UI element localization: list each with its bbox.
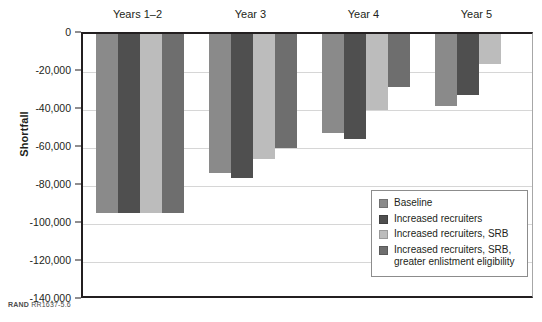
bar xyxy=(96,34,118,213)
chart-legend: BaselineIncreased recruitersIncreased re… xyxy=(371,190,528,277)
legend-swatch-icon xyxy=(379,246,388,255)
source-credit: RAND RR1637-5.6 xyxy=(8,301,71,308)
y-axis-tick-label: -120,000 xyxy=(30,254,71,266)
bar xyxy=(275,34,297,148)
legend-swatch-icon xyxy=(379,199,388,208)
legend-label: Baseline xyxy=(394,197,432,210)
legend-item[interactable]: Increased recruiters, SRB xyxy=(379,228,520,241)
bar xyxy=(231,34,253,178)
credit-brand: RAND xyxy=(8,301,29,308)
y-axis-tick-label: 0 xyxy=(65,26,71,38)
bar xyxy=(344,34,366,139)
bar xyxy=(457,34,479,95)
x-axis-group-label: Year 3 xyxy=(235,8,266,20)
legend-label: Increased recruiters, SRB xyxy=(394,228,509,241)
bar-chart-figure: Shortfall 0-20,000-40,000-60,000-80,000-… xyxy=(0,0,542,322)
legend-item[interactable]: Increased recruiters, SRB, greater enlis… xyxy=(379,244,520,269)
bar xyxy=(322,34,344,133)
x-axis-group-label: Years 1–2 xyxy=(113,8,162,20)
y-axis-tick-label: -40,000 xyxy=(35,102,71,114)
bar xyxy=(435,34,457,106)
y-axis-tick-label: -100,000 xyxy=(30,216,71,228)
x-axis-group-labels: Years 1–2Year 3Year 4Year 5 xyxy=(81,8,533,28)
legend-swatch-icon xyxy=(379,230,388,239)
bar xyxy=(140,34,162,213)
legend-label: Increased recruiters, SRB, greater enlis… xyxy=(394,244,520,269)
bar xyxy=(479,34,501,64)
bar xyxy=(253,34,275,159)
y-axis-tick-label: -20,000 xyxy=(35,64,71,76)
y-axis-tick-label: -60,000 xyxy=(35,140,71,152)
bar xyxy=(118,34,140,213)
bar xyxy=(162,34,184,213)
y-axis-tick-label: -80,000 xyxy=(35,178,71,190)
legend-swatch-icon xyxy=(379,215,388,224)
y-axis-tick-labels: 0-20,000-40,000-60,000-80,000-100,000-12… xyxy=(0,32,81,298)
bar xyxy=(388,34,410,87)
legend-item[interactable]: Baseline xyxy=(379,197,520,210)
x-axis-group-label: Year 5 xyxy=(461,8,492,20)
legend-label: Increased recruiters xyxy=(394,213,482,226)
bar xyxy=(209,34,231,173)
bar xyxy=(366,34,388,110)
x-axis-group-label: Year 4 xyxy=(348,8,379,20)
legend-item[interactable]: Increased recruiters xyxy=(379,213,520,226)
credit-id: RR1637-5.6 xyxy=(31,301,71,308)
